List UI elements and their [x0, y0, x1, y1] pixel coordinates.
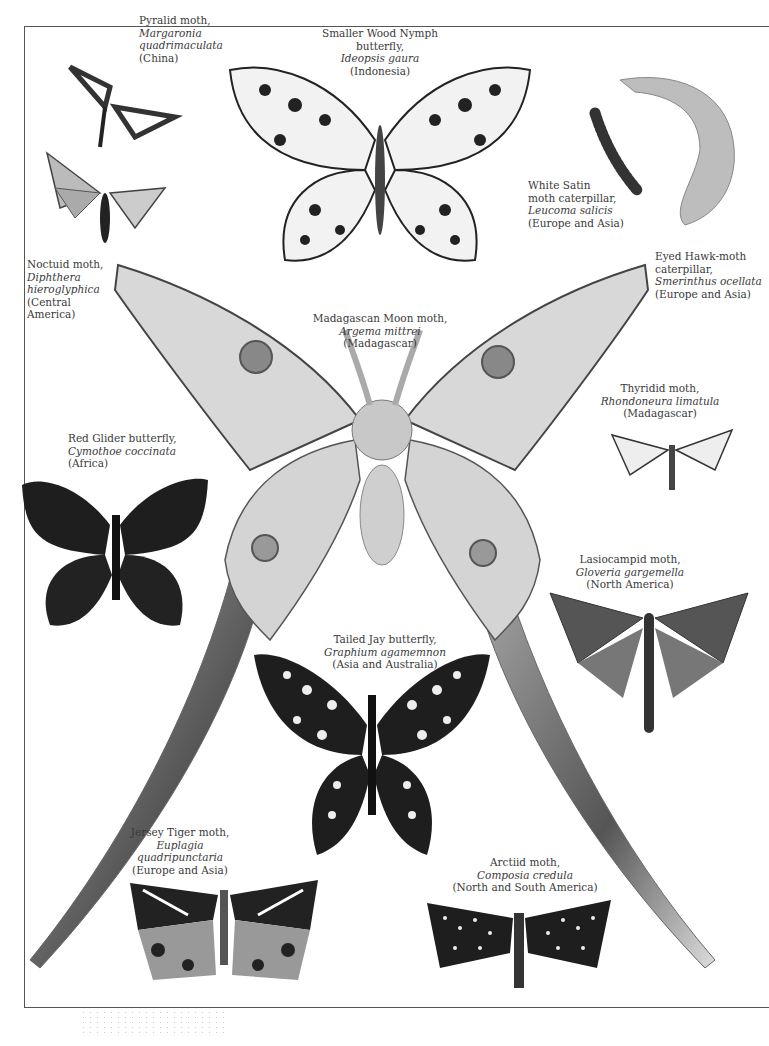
region: (Europe and Asia) [655, 288, 762, 301]
label-noctuid-moth: Noctuid moth, Diphthera hieroglyphica (C… [27, 258, 103, 321]
region: America) [27, 308, 103, 321]
common-name: Arctiid moth, [440, 856, 610, 869]
common-name: Smaller Wood Nymph butterfly, [300, 27, 460, 52]
noctuid-moth-illustration [45, 148, 170, 248]
scientific-name: hieroglyphica [27, 283, 103, 296]
label-pyralid-moth: Pyralid moth, Margaronia quadrimaculata … [139, 14, 223, 64]
red-glider-butterfly-illustration [20, 475, 210, 635]
label-red-glider: Red Glider butterfly, Cymothoe coccinata… [68, 432, 177, 470]
jersey-tiger-moth-illustration [128, 875, 320, 990]
lasiocampid-moth-illustration [548, 588, 750, 738]
region: (Europe and Asia) [115, 864, 245, 877]
region: (Asia and Australia) [300, 658, 470, 671]
thyridid-moth-illustration [610, 425, 735, 495]
region: (Africa) [68, 457, 177, 470]
region: (Central [27, 296, 103, 309]
label-eyed-hawk-moth: Eyed Hawk-moth caterpillar, Smerinthus o… [655, 250, 762, 300]
scientific-name: Leucoma salicis [528, 204, 624, 217]
eyed-hawk-caterpillar-illustration [615, 70, 745, 230]
scientific-name: Euplagia [115, 839, 245, 852]
label-tailed-jay: Tailed Jay butterfly, Graphium agamemnon… [300, 633, 470, 671]
scientific-name: Cymothoe coccinata [68, 445, 177, 458]
scientific-name: Gloveria gargemella [565, 566, 695, 579]
label-thyridid-moth: Thyridid moth, Rhondoneura limatula (Mad… [600, 382, 720, 420]
scientific-name: Ideopsis gaura [300, 52, 460, 65]
scientific-name: Argema mittrei [300, 325, 460, 338]
common-name: moth caterpillar, [528, 192, 624, 205]
wood-nymph-butterfly-illustration [225, 60, 535, 265]
label-white-satin: White Satin moth caterpillar, Leucoma sa… [528, 179, 624, 229]
region: (North and South America) [440, 881, 610, 894]
region: (North America) [565, 578, 695, 591]
label-lasiocampid-moth: Lasiocampid moth, Gloveria gargemella (N… [565, 553, 695, 591]
scientific-name: Smerinthus ocellata [655, 275, 762, 288]
common-name: Eyed Hawk-moth [655, 250, 762, 263]
label-arctiid-moth: Arctiid moth, Composia credula (North an… [440, 856, 610, 894]
scientific-name: quadripunctaria [115, 851, 245, 864]
common-name: Lasiocampid moth, [565, 553, 695, 566]
scientific-name: Diphthera [27, 271, 103, 284]
common-name: Jersey Tiger moth, [115, 826, 245, 839]
label-moon-moth: Madagascan Moon moth, Argema mittrei (Ma… [300, 312, 460, 350]
common-name: Tailed Jay butterfly, [300, 633, 470, 646]
common-name: Madagascan Moon moth, [300, 312, 460, 325]
label-wood-nymph: Smaller Wood Nymph butterfly, Ideopsis g… [300, 27, 460, 77]
pyralid-moth-illustration [65, 62, 185, 152]
scientific-name: Rhondoneura limatula [600, 395, 720, 408]
common-name: caterpillar, [655, 263, 762, 276]
scientific-name: Composia credula [440, 869, 610, 882]
scientific-name: quadrimaculata [139, 39, 223, 52]
common-name: Red Glider butterfly, [68, 432, 177, 445]
scientific-name: Margaronia [139, 27, 223, 40]
region: (Madagascar) [600, 407, 720, 420]
tailed-jay-butterfly-illustration [252, 645, 492, 860]
region: (China) [139, 52, 223, 65]
common-name: White Satin [528, 179, 624, 192]
label-jersey-tiger-moth: Jersey Tiger moth, Euplagia quadripuncta… [115, 826, 245, 876]
common-name: Thyridid moth, [600, 382, 720, 395]
common-name: Pyralid moth, [139, 14, 223, 27]
scientific-name: Graphium agamemnon [300, 646, 470, 659]
print-smudge [80, 1010, 230, 1035]
region: (Madagascar) [300, 337, 460, 350]
arctiid-moth-illustration [425, 898, 613, 993]
common-name: Noctuid moth, [27, 258, 103, 271]
region: (Indonesia) [300, 65, 460, 78]
region: (Europe and Asia) [528, 217, 624, 230]
